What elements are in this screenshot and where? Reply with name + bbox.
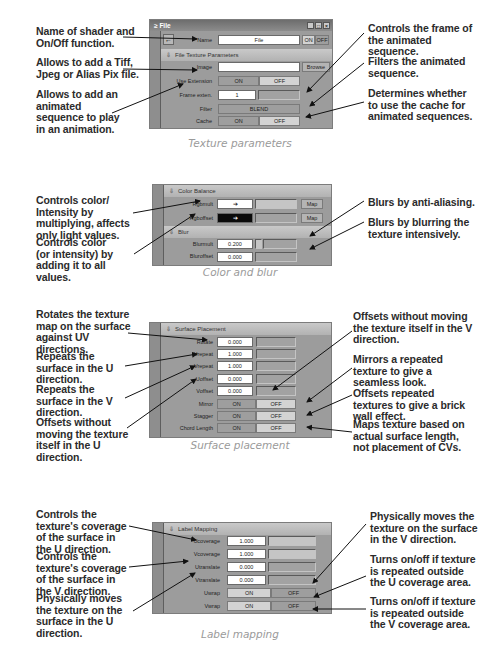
- rgboffset-slider[interactable]: [255, 213, 297, 223]
- window-titlebar: ≥ File _□×: [150, 20, 332, 31]
- rgbmult-slider[interactable]: [255, 199, 297, 209]
- filter-label: Filter: [149, 106, 212, 112]
- bluroffset-label: Bluroffset: [152, 253, 213, 259]
- ucoverage-slider[interactable]: [268, 536, 316, 546]
- vtranslate-label: Vtranslate: [152, 577, 220, 583]
- uoffset-label: Uoffset: [149, 376, 213, 382]
- vtranslate-input[interactable]: 0.000: [227, 575, 266, 585]
- rgboffset-swatch[interactable]: ➔: [217, 213, 253, 223]
- note-vwrap: Turns on/off if texture is repeated outs…: [370, 596, 478, 631]
- utranslate-label: Utranslate: [152, 564, 220, 570]
- color-balance-header[interactable]: ⇩ Color Balance: [164, 185, 331, 197]
- rgbmult-label: Rgbmult: [152, 201, 213, 207]
- note-voffset: Offsets without moving the texture itsel…: [353, 311, 477, 346]
- frame-extension-label: Frame exten.: [149, 92, 212, 98]
- vrepeat-slider[interactable]: [256, 361, 296, 371]
- frame-extension-slider[interactable]: [258, 90, 300, 100]
- mirror-label: Mirror: [149, 401, 213, 407]
- section-title: Color Balance: [178, 188, 216, 194]
- browse-button[interactable]: Browse: [302, 62, 330, 72]
- chord-length-on-button[interactable]: ON: [217, 423, 256, 433]
- filter-dropdown[interactable]: BLEND: [218, 104, 300, 114]
- note-urepeat: Repeats the surface in the U direction.: [36, 351, 130, 386]
- rotate-input[interactable]: 0.000: [217, 337, 253, 347]
- utranslate-input[interactable]: 0.000: [227, 562, 266, 572]
- mirror-on-button[interactable]: ON: [217, 399, 256, 409]
- note-blurmult: Blurs by anti-aliasing.: [368, 197, 478, 209]
- surface-placement-header[interactable]: ⇩ Surface Placement: [161, 323, 331, 335]
- vwrap-on-button[interactable]: ON: [227, 601, 271, 611]
- stagger-on-button[interactable]: ON: [217, 411, 256, 421]
- vtranslate-slider[interactable]: [268, 575, 316, 585]
- stagger-label: Stagger: [149, 413, 213, 419]
- cache-off-button[interactable]: OFF: [259, 116, 300, 126]
- blurmult-slider[interactable]: [263, 239, 297, 249]
- voffset-input[interactable]: 0.000: [217, 386, 253, 396]
- surface-placement-panel: ⇩ Surface Placement Rotate 0.000 Urepeat…: [149, 322, 332, 438]
- note-rotate: Rotates the texture map on the surface a…: [36, 309, 136, 355]
- uwrap-label: Uwrap: [152, 590, 220, 596]
- voffset-slider[interactable]: [256, 386, 296, 396]
- close-icon[interactable]: ×: [323, 22, 330, 29]
- vwrap-label: Vwrap: [152, 603, 220, 609]
- note-uoffset: Offsets without moving the texture itsel…: [36, 417, 134, 463]
- ucoverage-label: Ucoverage: [152, 538, 220, 544]
- uoffset-slider[interactable]: [256, 374, 296, 384]
- vcoverage-input[interactable]: 1.000: [227, 549, 266, 559]
- note-chord-length: Maps texture based on actual surface len…: [353, 419, 477, 454]
- urepeat-slider[interactable]: [256, 349, 296, 359]
- note-rgbmult: Controls color/ Intensity by multiplying…: [36, 195, 136, 241]
- utranslate-slider[interactable]: [268, 562, 316, 572]
- shader-off-button[interactable]: OFF: [315, 35, 329, 45]
- window-title: File: [159, 22, 170, 29]
- note-uwrap: Turns on/off if texture is repeated outs…: [370, 554, 478, 589]
- bluroffset-slider[interactable]: [255, 252, 297, 262]
- rgboffset-map-button[interactable]: Map: [301, 213, 323, 223]
- uoffset-input[interactable]: 0.000: [217, 374, 253, 384]
- shader-on-button[interactable]: ON: [302, 35, 315, 45]
- rgbmult-map-button[interactable]: Map: [301, 199, 323, 209]
- rotate-slider[interactable]: [256, 337, 296, 347]
- use-extension-on-button[interactable]: ON: [218, 76, 259, 86]
- cache-on-button[interactable]: ON: [218, 116, 259, 126]
- file-texture-params-header[interactable]: ⇩ File Texture Parameters: [161, 49, 332, 61]
- caption-label-mapping: Label mapping: [140, 628, 340, 640]
- mirror-off-button[interactable]: OFF: [256, 399, 296, 409]
- name-input[interactable]: File: [218, 35, 300, 45]
- minimize-icon[interactable]: _: [307, 22, 314, 29]
- note-image-file: Allows to add a Tiff, Jpeg or Alias Pix …: [36, 57, 154, 80]
- rgbmult-swatch[interactable]: ➔: [217, 199, 253, 209]
- blur-header[interactable]: ⇩ Blur: [164, 226, 331, 238]
- uwrap-on-button[interactable]: ON: [227, 588, 271, 598]
- collapse-icon: ⇩: [169, 226, 174, 238]
- ucoverage-input[interactable]: 1.000: [227, 536, 266, 546]
- image-label: Image: [149, 64, 212, 70]
- uwrap-off-button[interactable]: OFF: [271, 588, 316, 598]
- bluroffset-input[interactable]: 0.000: [217, 252, 253, 262]
- use-extension-off-button[interactable]: OFF: [259, 76, 300, 86]
- stagger-off-button[interactable]: OFF: [256, 411, 296, 421]
- chord-length-label: Chord Length: [149, 425, 213, 431]
- note-frame-extension: Controls the frame of the animated seque…: [368, 23, 478, 58]
- maximize-icon[interactable]: □: [315, 22, 322, 29]
- frame-extension-input[interactable]: 1: [218, 90, 256, 100]
- blurmult-input[interactable]: 0.200: [217, 239, 253, 249]
- collapse-icon: ⇩: [169, 523, 174, 535]
- urepeat-label: Urepeat: [149, 351, 213, 357]
- vrepeat-label: Vrepeat: [149, 363, 213, 369]
- note-vtranslate: Physically moves the texture on the surf…: [370, 511, 478, 546]
- chord-length-off-button[interactable]: OFF: [256, 423, 296, 433]
- note-rgboffset: Controls color (or intensity) by adding …: [36, 237, 118, 283]
- blurmult-slider-thumb[interactable]: [255, 239, 262, 249]
- label-mapping-header[interactable]: ⇩ Label Mapping: [164, 523, 331, 535]
- label-mapping-panel: ⇩ Label Mapping Ucoverage 1.000 Vcoverag…: [152, 522, 332, 614]
- vrepeat-input[interactable]: 1.000: [217, 361, 253, 371]
- caption-color-and-blur: Color and blur: [140, 266, 340, 278]
- vcoverage-slider[interactable]: [268, 549, 316, 559]
- vwrap-off-button[interactable]: OFF: [271, 601, 316, 611]
- urepeat-input[interactable]: 1.000: [217, 349, 253, 359]
- note-vrepeat: Repeats the surface in the V direction.: [36, 384, 130, 419]
- image-input[interactable]: [218, 62, 300, 72]
- rgboffset-label: Rgboffset: [152, 215, 213, 221]
- caption-texture-parameters: Texture parameters: [140, 137, 340, 149]
